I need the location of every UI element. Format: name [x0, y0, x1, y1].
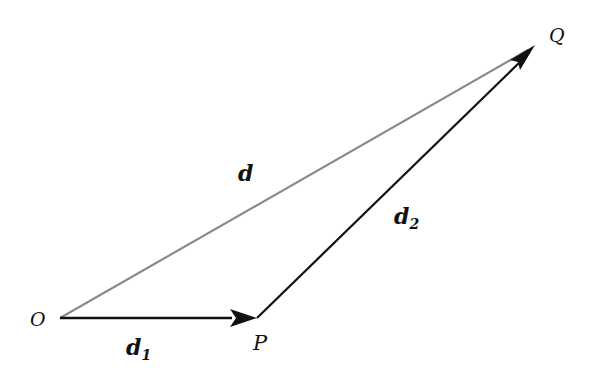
vector-label-d2-sub: 2 — [408, 216, 419, 232]
vector-label-d1-main: d — [126, 334, 141, 360]
vector-d-line — [60, 50, 528, 318]
point-label-o: O — [30, 308, 46, 330]
arrowhead-d1-icon — [230, 309, 257, 327]
point-label-q: Q — [549, 24, 565, 46]
vector-label-d2-main: d — [394, 203, 409, 229]
vector-label-d1: d1 — [126, 334, 151, 363]
vector-diagram: O P Q d d2 d1 — [0, 0, 602, 372]
point-label-p: P — [252, 331, 268, 355]
vector-label-d2: d2 — [394, 203, 419, 232]
vector-d2-line — [257, 60, 522, 318]
vector-label-d: d — [238, 160, 253, 186]
vector-label-d1-sub: 1 — [141, 347, 151, 363]
